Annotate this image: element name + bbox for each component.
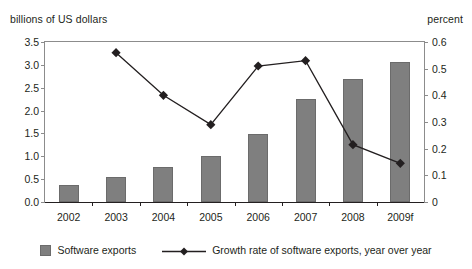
- x-axis-tick-mark: [329, 202, 330, 206]
- left-axis-title: billions of US dollars: [10, 13, 107, 25]
- y2-axis-tick-mark: [424, 122, 428, 123]
- y2-axis-tick-mark: [424, 42, 428, 43]
- x-axis-tick-label-2003: 2003: [104, 211, 127, 223]
- legend-item-software-exports: Software exports: [40, 244, 136, 256]
- y2-axis-tick-label: 0.3: [432, 116, 447, 128]
- x-axis-tick-mark: [377, 202, 378, 206]
- x-axis-tick-mark: [140, 202, 141, 206]
- legend-label-software-exports: Software exports: [57, 244, 136, 256]
- x-axis-tick-label-2002: 2002: [57, 211, 80, 223]
- right-axis-title: percent: [427, 13, 463, 25]
- chart-figure: billions of US dollars percent 0.00.51.0…: [0, 0, 472, 269]
- legend-item-growth-rate: Growth rate of software exports, year ov…: [162, 244, 431, 256]
- legend-label-growth-rate: Growth rate of software exports, year ov…: [212, 244, 431, 256]
- y-axis-tick-label: 3.5: [24, 36, 39, 48]
- y-axis-tick-label: 2.0: [24, 105, 39, 117]
- x-axis-tick-mark: [187, 202, 188, 206]
- y2-axis-tick-mark: [424, 95, 428, 96]
- y-axis-tick-mark: [41, 202, 45, 203]
- y-axis-tick-label: 1.5: [24, 127, 39, 139]
- x-axis-tick-label-2006: 2006: [247, 211, 270, 223]
- y2-axis-tick-label: 0.4: [432, 89, 447, 101]
- y-axis-tick-label: 3.0: [24, 59, 39, 71]
- y2-axis-tick-label: 0.5: [432, 63, 447, 75]
- y2-axis-tick-mark: [424, 149, 428, 150]
- y2-axis-tick-label: 0.2: [432, 143, 447, 155]
- y2-axis-tick-mark: [424, 69, 428, 70]
- legend-line-diamond-icon: [162, 246, 206, 255]
- y2-axis-tick-mark: [424, 175, 428, 176]
- x-axis-tick-mark: [282, 202, 283, 206]
- legend-square-icon: [40, 245, 51, 256]
- y-axis-tick-label: 2.5: [24, 82, 39, 94]
- x-axis-tick-label-2007: 2007: [294, 211, 317, 223]
- y-axis-tick-label: 0.5: [24, 173, 39, 185]
- growth-rate-marker-2009f: [396, 159, 405, 168]
- y2-axis-tick-label: 0.6: [432, 36, 447, 48]
- x-axis-tick-label-2004: 2004: [152, 211, 175, 223]
- growth-rate-marker-2007: [301, 56, 310, 65]
- y2-axis-tick-label: 0: [432, 196, 438, 208]
- plot-area: 0.00.51.01.52.02.53.03.500.10.20.30.40.5…: [44, 41, 425, 203]
- x-axis-tick-label-2005: 2005: [199, 211, 222, 223]
- x-axis-tick-label-2009f: 2009f: [387, 211, 413, 223]
- y2-axis-tick-label: 0.1: [432, 169, 447, 181]
- chart-legend: Software exports Growth rate of software…: [0, 244, 472, 256]
- y2-axis-tick-mark: [424, 202, 428, 203]
- growth-rate-line-series: [45, 42, 424, 202]
- x-axis-tick-mark: [235, 202, 236, 206]
- x-axis-tick-label-2008: 2008: [341, 211, 364, 223]
- growth-rate-marker-2008: [348, 140, 357, 149]
- y-axis-tick-label: 1.0: [24, 150, 39, 162]
- y-axis-tick-label: 0.0: [24, 196, 39, 208]
- x-axis-tick-mark: [92, 202, 93, 206]
